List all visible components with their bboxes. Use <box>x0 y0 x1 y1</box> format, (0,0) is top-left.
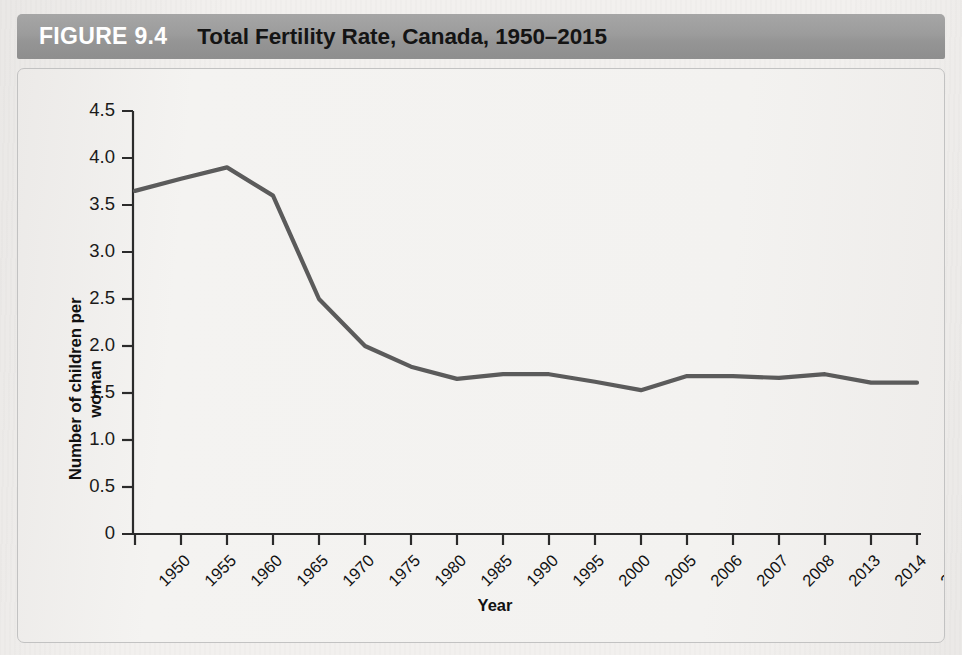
y-axis-title: Number of children per woman <box>66 269 106 509</box>
y-tick-label: 4.0 <box>57 146 115 168</box>
fertility-rate-line <box>135 167 917 390</box>
fertility-line-chart <box>18 69 945 643</box>
figure-header-bar: FIGURE 9.4 Total Fertility Rate, Canada,… <box>17 14 945 59</box>
figure-number-label: FIGURE 9.4 <box>39 23 167 50</box>
y-tick-label: 3.0 <box>57 240 115 262</box>
y-tick-label: 4.5 <box>57 99 115 121</box>
x-axis-title: Year <box>478 596 513 614</box>
chart-axes <box>133 111 921 534</box>
x-axis-title-wrap: Year <box>0 596 962 615</box>
y-tick-label: 3.5 <box>57 193 115 215</box>
figure-title-label: Total Fertility Rate, Canada, 1950–2015 <box>197 24 607 50</box>
chart-panel: 00.51.01.52.02.53.03.54.04.5 19501955196… <box>17 68 945 643</box>
y-tick-label: 0 <box>57 522 115 544</box>
